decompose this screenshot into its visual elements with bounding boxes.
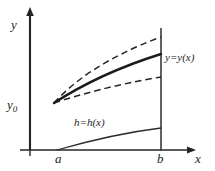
y-axis-label: y [11,18,17,31]
figure-canvas [0,0,215,171]
x-axis [20,146,196,153]
x-axis-label: x [195,152,201,165]
solution-curve-label: y=y(x) [165,52,194,63]
h-curve [57,128,161,150]
h-curve-label: h=h(x) [74,117,105,128]
lower-dashed-curve [54,77,161,103]
y-intercept-label: y0 [7,98,17,111]
y-axis [26,7,34,150]
y-intercept-subscript: 0 [13,104,18,114]
math-figure: y x y0 a b y=y(x) h=h(x) [0,0,215,171]
y-intercept-base: y [7,97,13,112]
x-tick-label-a: a [55,152,62,165]
x-tick-label-b: b [157,152,164,165]
